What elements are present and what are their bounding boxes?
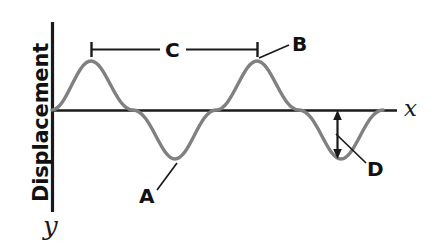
wave-diagram-figure: Displacement x y C B A D — [0, 0, 433, 249]
wave-diagram-canvas — [0, 0, 433, 249]
annotation-label-c: C — [165, 40, 180, 60]
x-axis-label: x — [404, 97, 417, 120]
annotation-label-a: A — [139, 186, 154, 206]
annotation-label-b: B — [292, 34, 307, 54]
y-axis-label: y — [43, 213, 58, 239]
leader-line-a — [157, 163, 177, 190]
y-axis-title: Displacement — [31, 38, 52, 208]
leader-line-b — [259, 45, 289, 58]
annotation-label-d: D — [367, 159, 384, 179]
